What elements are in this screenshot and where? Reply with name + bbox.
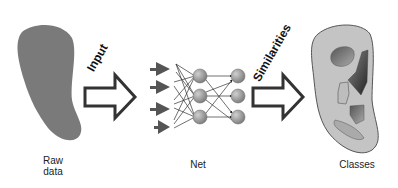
raw-data-label-line2: data (38, 166, 68, 177)
net-label: Net (178, 159, 218, 170)
input-arrow (85, 75, 135, 118)
net-input-arrows (150, 62, 170, 134)
raw-data-label-line1: Raw (38, 155, 68, 166)
classes-label: Classes (327, 159, 387, 170)
raw-data-blob (18, 25, 82, 140)
classes-blob (312, 25, 379, 153)
raw-data-label: Raw data (38, 155, 68, 177)
